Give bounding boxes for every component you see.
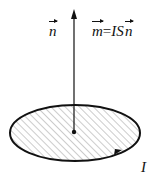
magnetic-moment-formula: m=IS n	[92, 24, 133, 39]
normal-vector-symbol: n	[49, 24, 57, 39]
current-area-product: IS	[111, 23, 124, 39]
diagram-canvas: n m=IS n I	[0, 0, 155, 177]
current-label: I	[141, 160, 146, 175]
unit-normal-symbol: n	[125, 24, 133, 39]
loop-center-dot	[72, 130, 76, 134]
normal-vector-label: n	[49, 24, 57, 39]
moment-vector-symbol: m	[92, 24, 103, 39]
